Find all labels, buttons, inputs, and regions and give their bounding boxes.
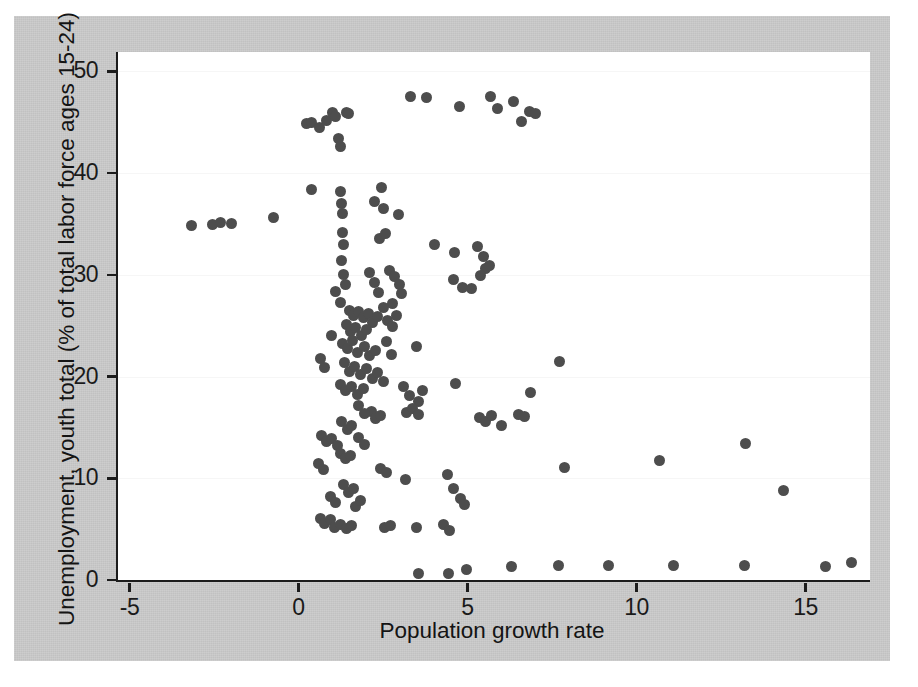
data-point <box>359 408 370 419</box>
y-axis-label: Unemployment, youth total (% of total la… <box>54 9 80 629</box>
data-point <box>486 410 497 421</box>
data-point <box>358 383 369 394</box>
data-point <box>411 341 422 352</box>
x-tick-mark-5 <box>466 583 469 592</box>
data-point <box>603 560 614 571</box>
data-point <box>554 356 565 367</box>
data-point <box>553 560 564 571</box>
data-point <box>454 101 465 112</box>
data-point <box>413 568 424 579</box>
data-point <box>387 321 398 332</box>
data-point <box>846 557 857 568</box>
data-point <box>343 108 354 119</box>
data-point <box>496 420 507 431</box>
data-point <box>519 411 530 422</box>
data-point <box>340 279 351 290</box>
data-point <box>346 520 357 531</box>
data-point <box>668 560 679 571</box>
data-point <box>475 270 486 281</box>
data-point <box>442 469 453 480</box>
data-point <box>525 387 536 398</box>
data-point <box>335 141 346 152</box>
data-point <box>347 335 358 346</box>
data-point <box>381 336 392 347</box>
gridline-y-50 <box>118 71 870 72</box>
x-tick-label-5: 5 <box>427 594 507 621</box>
data-point <box>330 111 341 122</box>
data-point <box>380 228 391 239</box>
data-point <box>335 186 346 197</box>
data-point <box>226 218 237 229</box>
y-tick-mark-30 <box>107 274 116 277</box>
data-point <box>405 91 416 102</box>
data-point <box>337 227 348 238</box>
data-point <box>396 288 407 299</box>
data-point <box>338 239 349 250</box>
data-point <box>508 96 519 107</box>
data-point <box>326 330 337 341</box>
data-point <box>778 485 789 496</box>
data-point <box>330 497 341 508</box>
data-point <box>484 260 495 271</box>
data-point <box>530 108 541 119</box>
data-point <box>393 209 404 220</box>
plot-area <box>116 52 870 582</box>
data-point <box>376 182 387 193</box>
data-point <box>386 349 397 360</box>
data-point <box>361 324 372 335</box>
y-tick-mark-10 <box>107 477 116 480</box>
y-tick-mark-20 <box>107 375 116 378</box>
data-point <box>739 560 750 571</box>
data-point <box>268 212 279 223</box>
data-point <box>516 116 527 127</box>
data-point <box>355 495 366 506</box>
data-point <box>654 455 665 466</box>
x-tick-mark--5 <box>128 583 131 592</box>
data-point <box>413 409 424 420</box>
data-point <box>378 203 389 214</box>
x-tick-label-0: 0 <box>259 594 339 621</box>
data-point <box>215 217 226 228</box>
data-point <box>359 439 370 450</box>
data-point <box>506 561 517 572</box>
data-point <box>319 362 330 373</box>
data-point <box>337 208 348 219</box>
data-point <box>330 286 341 297</box>
data-point <box>378 302 389 313</box>
x-tick-label-15: 15 <box>765 594 845 621</box>
data-point <box>400 474 411 485</box>
y-tick-mark-40 <box>107 172 116 175</box>
x-tick-label-10: 10 <box>596 594 676 621</box>
gridline-y-20 <box>118 377 870 378</box>
data-point <box>740 438 751 449</box>
data-point <box>411 522 422 533</box>
data-point <box>346 420 357 431</box>
data-point <box>336 255 347 266</box>
data-point <box>450 378 461 389</box>
data-point <box>417 385 428 396</box>
data-point <box>466 283 477 294</box>
x-tick-mark-0 <box>297 583 300 592</box>
data-point <box>391 310 402 321</box>
y-tick-mark-50 <box>107 70 116 73</box>
data-point <box>348 483 359 494</box>
data-point <box>461 564 472 575</box>
data-point <box>375 410 386 421</box>
data-point <box>485 91 496 102</box>
data-point <box>370 345 381 356</box>
data-point <box>449 247 460 258</box>
data-point <box>345 450 356 461</box>
x-tick-mark-15 <box>804 583 807 592</box>
gridline-y-10 <box>118 478 870 479</box>
data-point <box>421 92 432 103</box>
data-point <box>378 376 389 387</box>
x-axis-label: Population growth rate <box>116 618 868 644</box>
x-tick-label--5: -5 <box>90 594 170 621</box>
data-point <box>820 561 831 572</box>
data-point <box>381 467 392 478</box>
x-tick-mark-10 <box>635 583 638 592</box>
figure-background: 01020304050 -5051015 Unemployment, youth… <box>14 16 890 661</box>
gridline-y-40 <box>118 173 870 174</box>
data-point <box>444 525 455 536</box>
y-tick-mark-0 <box>107 579 116 582</box>
